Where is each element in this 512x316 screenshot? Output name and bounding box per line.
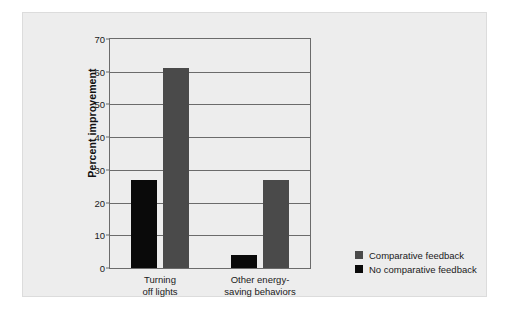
y-tick-mark-70 (106, 39, 110, 40)
figure-panel: Percent improvement 010203040506070Turni… (22, 12, 487, 297)
y-tick-mark-40 (106, 137, 110, 138)
bar-1-0 (231, 255, 257, 268)
x-category-label-1: Other energy-saving behaviors (224, 274, 295, 297)
gridline-40 (110, 137, 310, 138)
bar-0-0 (131, 180, 157, 268)
y-tick-label-20: 20 (94, 197, 105, 208)
y-tick-mark-60 (106, 71, 110, 72)
legend-label-0: Comparative feedback (369, 250, 464, 261)
legend-swatch-icon-1 (355, 265, 363, 273)
y-tick-mark-0 (106, 268, 110, 269)
y-tick-mark-30 (106, 169, 110, 170)
x-category-label-0: Turningoff lights (142, 274, 177, 297)
y-tick-label-50: 50 (94, 99, 105, 110)
plot-area: 010203040506070Turningoff lightsOther en… (109, 38, 311, 269)
legend-item-1: No comparative feedback (355, 262, 477, 276)
y-tick-mark-20 (106, 202, 110, 203)
legend-swatch-icon-0 (355, 251, 363, 259)
y-tick-mark-10 (106, 235, 110, 236)
gridline-50 (110, 104, 310, 105)
gridline-60 (110, 72, 310, 73)
y-tick-label-10: 10 (94, 230, 105, 241)
y-tick-label-30: 30 (94, 164, 105, 175)
y-tick-label-70: 70 (94, 34, 105, 45)
legend-item-0: Comparative feedback (355, 248, 477, 262)
y-tick-mark-50 (106, 104, 110, 105)
legend-label-1: No comparative feedback (369, 264, 477, 275)
y-tick-label-40: 40 (94, 132, 105, 143)
gridline-30 (110, 170, 310, 171)
bar-1-1 (263, 180, 289, 268)
y-tick-label-60: 60 (94, 66, 105, 77)
chart-legend: Comparative feedbackNo comparative feedb… (355, 248, 477, 276)
y-tick-label-0: 0 (100, 263, 105, 274)
bar-0-1 (163, 68, 189, 268)
